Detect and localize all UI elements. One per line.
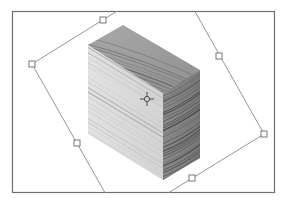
canvas[interactable]: [0, 0, 283, 200]
handle-left-mid[interactable]: [74, 140, 80, 146]
handle-top-mid[interactable]: [100, 17, 106, 23]
handle-right-corner[interactable]: [261, 131, 267, 137]
handle-bottom-mid[interactable]: [189, 175, 195, 181]
handle-right-mid[interactable]: [216, 53, 222, 59]
handle-left-corner[interactable]: [29, 61, 35, 67]
